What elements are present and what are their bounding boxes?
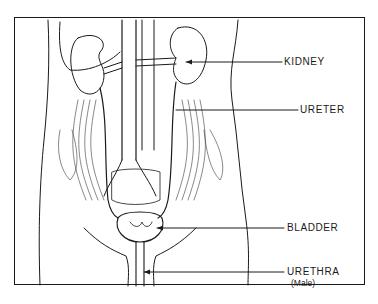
torso-right-outline — [231, 20, 249, 285]
torso-left-outline — [39, 20, 49, 285]
urethra-label: URETHRA — [287, 267, 340, 277]
bladder-arrowhead — [157, 226, 163, 231]
ureter-label: URETER — [300, 105, 345, 115]
urinary-anatomy-illustration — [0, 0, 378, 304]
urethra — [136, 242, 144, 286]
urethra-arrowhead — [144, 270, 150, 275]
urethra-note: (Male) — [291, 279, 315, 288]
bladder-label: BLADDER — [287, 223, 338, 233]
kidney-label: KIDNEY — [284, 57, 325, 67]
kidney-arrowhead — [186, 60, 192, 65]
left-kidney — [71, 35, 104, 94]
left-ureter — [100, 88, 118, 218]
right-ureter — [158, 82, 176, 218]
bladder — [117, 212, 163, 242]
right-kidney — [170, 27, 207, 84]
